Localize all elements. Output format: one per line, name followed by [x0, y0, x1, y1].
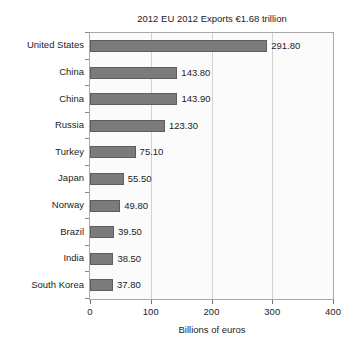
bar-row: 123.30 — [90, 113, 333, 140]
y-axis-label: Turkey — [0, 146, 84, 158]
x-axis-tick — [333, 300, 334, 304]
y-axis-label: United States — [0, 39, 84, 51]
bar[interactable] — [90, 200, 120, 212]
bar-chart: 2012 EU 2012 Exports €1.68 trillion Unit… — [0, 0, 359, 350]
bar-value-label: 75.10 — [140, 144, 164, 159]
bar-value-label: 39.50 — [118, 224, 142, 239]
x-axis-tick-label: 400 — [325, 305, 341, 318]
y-axis-label: Russia — [0, 119, 84, 131]
bar-value-label: 37.80 — [117, 277, 141, 292]
bar-row: 39.50 — [90, 219, 333, 246]
bar-row: 55.50 — [90, 166, 333, 193]
y-axis-label: Japan — [0, 172, 84, 184]
bar[interactable] — [90, 279, 113, 291]
x-axis-tick-label: 300 — [264, 305, 280, 318]
bar-value-label: 55.50 — [128, 171, 152, 186]
x-axis-tick-label: 200 — [204, 305, 220, 318]
x-axis-tick — [151, 300, 152, 304]
plot-area: 291.80143.80143.90123.3075.1055.5049.803… — [89, 32, 334, 300]
chart-title: 2012 EU 2012 Exports €1.68 trillion — [89, 13, 335, 25]
bar-value-label: 143.80 — [181, 65, 210, 80]
bar[interactable] — [90, 226, 114, 238]
bar[interactable] — [90, 67, 177, 79]
bar-value-label: 143.90 — [181, 91, 210, 106]
y-axis-label: China — [0, 93, 84, 105]
x-axis-tick — [212, 300, 213, 304]
x-axis-tick — [90, 300, 91, 304]
x-axis-tick-label: 0 — [87, 305, 92, 318]
bar-value-label: 38.50 — [117, 251, 141, 266]
bar-value-label: 49.80 — [124, 198, 148, 213]
x-axis-tick — [272, 300, 273, 304]
bars-layer: 291.80143.80143.90123.3075.1055.5049.803… — [90, 33, 333, 299]
y-axis-label: China — [0, 66, 84, 78]
bar-row: 143.90 — [90, 86, 333, 113]
y-axis-label: Brazil — [0, 226, 84, 238]
bar[interactable] — [90, 253, 113, 265]
x-axis-tick-label: 100 — [143, 305, 159, 318]
bar-row: 37.80 — [90, 272, 333, 299]
y-axis-label: India — [0, 252, 84, 264]
bar-row: 75.10 — [90, 139, 333, 166]
bar[interactable] — [90, 40, 267, 52]
x-axis-tick-labels: 0100200300400 — [89, 305, 335, 319]
bar-row: 291.80 — [90, 33, 333, 60]
y-axis-category-labels: United StatesChinaChinaRussiaTurkeyJapan… — [0, 32, 84, 300]
x-axis-title: Billions of euros — [89, 323, 335, 336]
bar-row: 143.80 — [90, 60, 333, 87]
bar[interactable] — [90, 146, 136, 158]
y-axis-label: Norway — [0, 199, 84, 211]
y-axis-label: South Korea — [0, 279, 84, 291]
bar-value-label: 291.80 — [271, 38, 300, 53]
bar[interactable] — [90, 173, 124, 185]
bar[interactable] — [90, 120, 165, 132]
bar[interactable] — [90, 93, 177, 105]
bar-row: 38.50 — [90, 246, 333, 273]
bar-value-label: 123.30 — [169, 118, 198, 133]
bar-row: 49.80 — [90, 193, 333, 220]
